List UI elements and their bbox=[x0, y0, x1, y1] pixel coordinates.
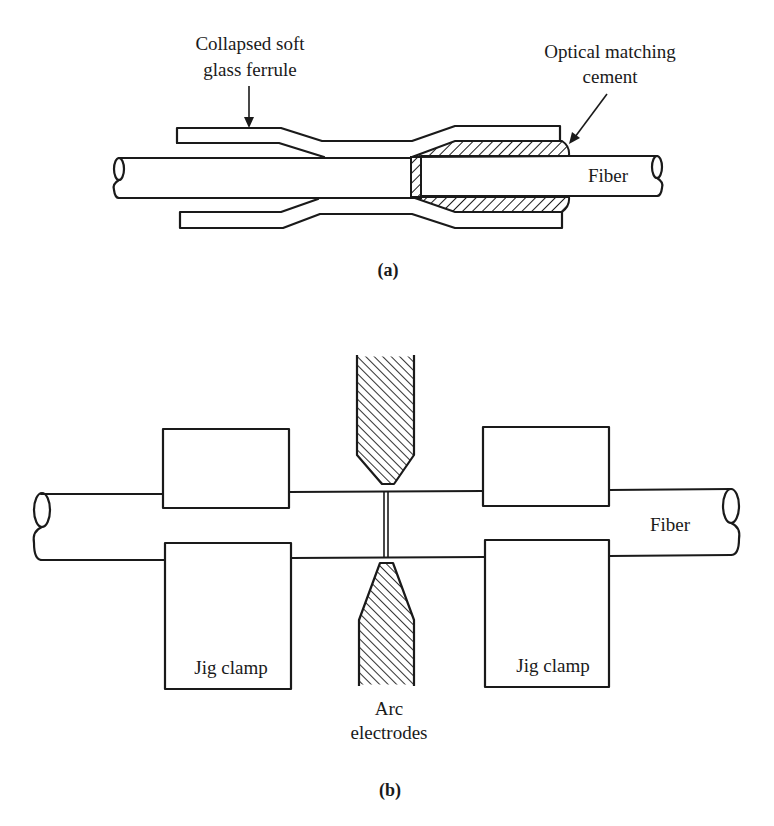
electrodes-label-line2: electrodes bbox=[350, 722, 427, 743]
electrodes-label-line1: Arc bbox=[375, 698, 403, 719]
optical-matching-cement-bottom bbox=[412, 197, 569, 212]
fiber-label-a: Fiber bbox=[588, 165, 629, 186]
left-jig-clamp-label: Jig clamp bbox=[194, 657, 267, 678]
cement-arrow-icon bbox=[569, 94, 607, 144]
right-jig-clamp-top bbox=[483, 427, 609, 506]
arc-electrode-bottom bbox=[359, 563, 414, 686]
fiber-left bbox=[114, 158, 411, 198]
ferrule-arrow-icon bbox=[244, 86, 254, 128]
part-a-ferrule-splice: Collapsed soft glass ferrule Optical mat… bbox=[114, 33, 677, 281]
caption-b: (b) bbox=[379, 780, 401, 801]
left-jig-clamp-top bbox=[163, 429, 289, 508]
optical-matching-cement-gap bbox=[411, 157, 421, 198]
fiber-splicing-diagram: Collapsed soft glass ferrule Optical mat… bbox=[0, 0, 774, 826]
ferrule-label-line1: Collapsed soft bbox=[195, 33, 305, 54]
ferrule-label-line2: glass ferrule bbox=[203, 59, 296, 80]
caption-a: (a) bbox=[378, 260, 399, 281]
cement-label-line1: Optical matching bbox=[544, 41, 676, 62]
arc-electrode-top bbox=[357, 355, 414, 484]
fiber-label-b: Fiber bbox=[650, 514, 691, 535]
fiber bbox=[34, 489, 740, 560]
optical-matching-cement-top bbox=[412, 141, 569, 157]
right-jig-clamp-label: Jig clamp bbox=[516, 655, 589, 676]
cement-label-line2: cement bbox=[583, 66, 639, 87]
part-b-arc-fusion-splice: Fiber Jig clamp Jig clamp Arc electrodes… bbox=[34, 355, 740, 801]
